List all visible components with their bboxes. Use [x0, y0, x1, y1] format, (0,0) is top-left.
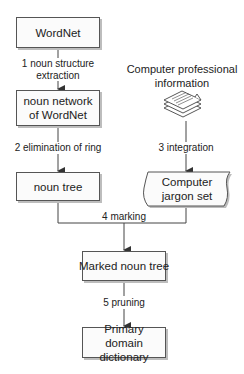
step5-label: 5 pruning	[94, 297, 154, 309]
marked-noun-tree-node: Marked noun tree	[82, 251, 166, 281]
source-info-label: Computer professional information	[126, 63, 238, 90]
step1-label: 1 noun structure extraction	[8, 58, 108, 82]
jargon-set-label: Computer jargon set	[154, 175, 220, 203]
noun-tree-node: noun tree	[16, 172, 100, 201]
wordnet-node: WordNet	[16, 17, 100, 48]
step3-label: 3 integration	[146, 142, 226, 154]
step4-label: 4 marking	[94, 211, 154, 223]
step2-label: 2 elimination of ring	[8, 142, 108, 154]
noun-network-label: noun network of WordNet	[21, 94, 95, 122]
primary-dictionary-label: Primary domain dictionary	[85, 322, 163, 364]
document-stack-icon	[164, 91, 201, 117]
marked-noun-tree-label: Marked noun tree	[79, 259, 169, 273]
wordnet-label: WordNet	[35, 26, 80, 40]
primary-dictionary-node: Primary domain dictionary	[82, 327, 166, 358]
noun-tree-label: noun tree	[34, 180, 83, 194]
noun-network-node: noun network of WordNet	[16, 90, 100, 126]
